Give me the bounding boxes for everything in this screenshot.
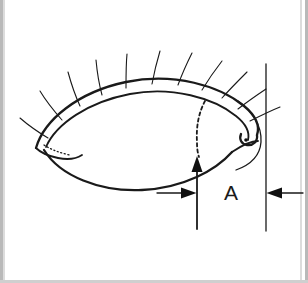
left-dimension-arrow-head [181,188,197,199]
upper-eyelid-outer-margin [36,79,258,148]
vertical-arrow-head [192,156,203,172]
lower-eyelid-margin [44,150,232,190]
right-dimension-arrow-head [267,188,283,199]
figure-root: A [0,0,308,283]
iris-limbus-dashed-line [197,101,205,157]
lateral-canthus-dot [244,138,248,142]
medial-canthus-contour [36,148,82,159]
eyelash-group [20,51,280,138]
measurement-label-a: A [224,181,238,204]
caruncle-dotted-line [44,145,70,155]
eyelash [20,118,48,138]
eye-anatomy-illustration: A [0,0,308,283]
